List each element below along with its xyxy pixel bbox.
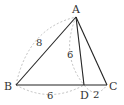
segment-ac (76, 17, 107, 85)
geometry-diagram: A B C D 8 6 6 2 (0, 0, 124, 105)
measure-ad: 6 (67, 49, 73, 60)
measure-bd: 6 (47, 90, 53, 101)
measure-ab: 8 (36, 37, 42, 48)
vertex-label-d: D (80, 89, 89, 102)
vertex-label-c: C (109, 80, 117, 93)
vertex-label-a: A (71, 3, 81, 16)
vertex-label-b: B (4, 80, 12, 93)
measure-dc: 2 (93, 89, 99, 100)
